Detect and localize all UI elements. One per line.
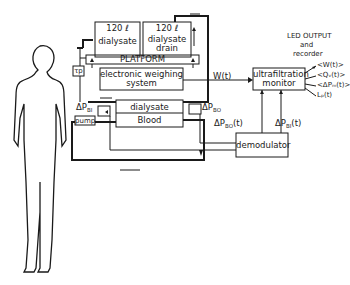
dialyzer-blood-label: Blood <box>116 116 183 125</box>
pump-label: pump <box>75 117 95 126</box>
ultrafiltration-monitor-label: ultrafiltration monitor <box>253 70 305 88</box>
dp-bi-label: ΔPBI <box>76 103 92 115</box>
dp-bo-label: ΔPBO <box>202 103 221 115</box>
patient-figure <box>14 46 66 272</box>
dialysate-tank-label: dialysate <box>95 37 140 46</box>
output-title: LED OUTPUT <box>287 32 331 41</box>
output-and: and <box>300 41 313 50</box>
dp-bi-t-label: ΔPBI(t) <box>275 119 301 131</box>
weighing-system-label: electronic weighing system <box>100 70 183 88</box>
output-dpm: <ΔPₘ(t)> <box>317 81 350 90</box>
dp-bo-t-label: ΔPBO(t) <box>214 119 243 131</box>
platform-label: PLATFORM <box>86 55 199 64</box>
output-recorder: recorder <box>293 50 323 59</box>
dialysate-tank-volume: 120 ℓ <box>95 24 140 33</box>
demodulator-label: demodulator <box>236 141 288 150</box>
dialyzer-dialysate-label: dialysate <box>116 103 183 112</box>
tp-label: τp <box>73 67 84 76</box>
drain-tank-volume: 120 ℓ <box>143 24 191 33</box>
drain-tank-label: dialysate drain <box>143 35 191 53</box>
w-signal-label: W(t) <box>213 72 231 81</box>
output-w: <W(t)> <box>317 61 344 70</box>
output-qv: <Qᵥ(t)> <box>317 71 345 80</box>
output-lp: Lₚ(t) <box>317 91 332 100</box>
